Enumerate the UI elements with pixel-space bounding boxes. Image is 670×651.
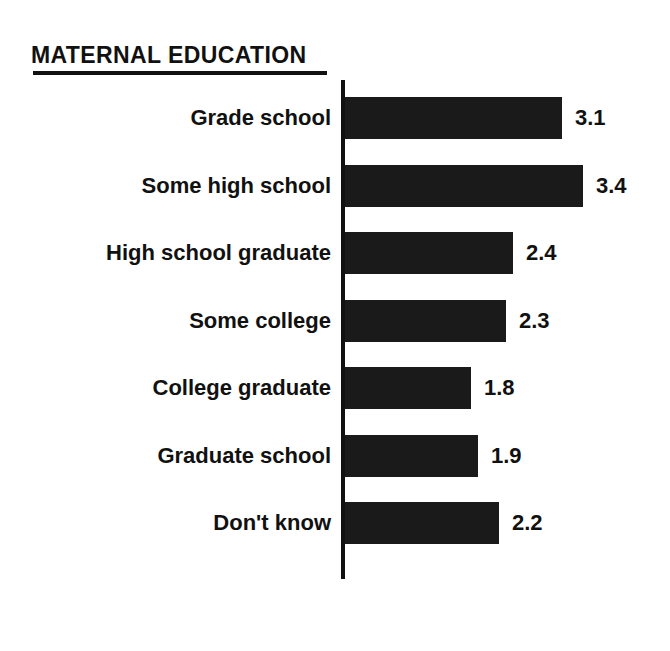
bar-value-label: 1.8 bbox=[484, 367, 515, 409]
bar-value-label: 1.9 bbox=[491, 435, 522, 477]
bar-row: Don't know2.2 bbox=[0, 502, 670, 544]
bar-row: Some high school3.4 bbox=[0, 165, 670, 207]
bar-value-label: 2.4 bbox=[526, 232, 557, 274]
category-label: Don't know bbox=[213, 502, 331, 544]
bar-row: Some college2.3 bbox=[0, 300, 670, 342]
bar bbox=[345, 435, 478, 477]
bar-row: High school graduate2.4 bbox=[0, 232, 670, 274]
bar-row: College graduate1.8 bbox=[0, 367, 670, 409]
category-label: College graduate bbox=[153, 367, 331, 409]
category-label: Some high school bbox=[142, 165, 331, 207]
bar-row: Graduate school1.9 bbox=[0, 435, 670, 477]
bar bbox=[345, 502, 499, 544]
bar bbox=[345, 165, 583, 207]
category-label: Some college bbox=[189, 300, 331, 342]
bar-chart: MATERNAL EDUCATION Grade school3.1Some h… bbox=[0, 0, 670, 651]
bar bbox=[345, 97, 562, 139]
bar-value-label: 2.3 bbox=[519, 300, 550, 342]
bar bbox=[345, 232, 513, 274]
plot-area: Grade school3.1Some high school3.4High s… bbox=[0, 0, 670, 651]
category-label: High school graduate bbox=[106, 232, 331, 274]
bar-row: Grade school3.1 bbox=[0, 97, 670, 139]
category-label: Graduate school bbox=[157, 435, 331, 477]
bar-value-label: 2.2 bbox=[512, 502, 543, 544]
bar bbox=[345, 367, 471, 409]
bar-value-label: 3.4 bbox=[596, 165, 627, 207]
bar-value-label: 3.1 bbox=[575, 97, 606, 139]
bar bbox=[345, 300, 506, 342]
category-label: Grade school bbox=[190, 97, 331, 139]
